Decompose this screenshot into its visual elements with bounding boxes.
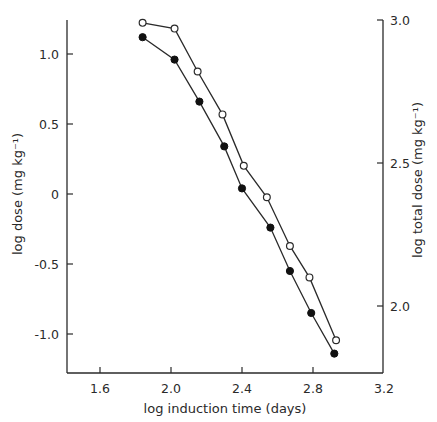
x-tick-label: 2.4 bbox=[232, 381, 252, 396]
x-tick-label: 3.2 bbox=[374, 381, 394, 396]
filled-circle-marker bbox=[286, 267, 293, 274]
open-circle-marker bbox=[219, 111, 226, 118]
filled-circle-marker bbox=[267, 224, 274, 231]
y-right-tick-label: 3.0 bbox=[390, 13, 410, 28]
filled-circle-marker bbox=[331, 350, 338, 357]
y-right-axis-title: log total dose (mg kg⁻¹) bbox=[410, 102, 425, 258]
filled-circle-marker bbox=[221, 143, 228, 150]
series-line-dose bbox=[143, 37, 335, 353]
y-right-tick-label: 2.0 bbox=[390, 299, 410, 314]
y-tick-label: -1.0 bbox=[35, 327, 59, 342]
open-circle-marker bbox=[171, 25, 178, 32]
x-tick-label: 2.8 bbox=[303, 381, 323, 396]
filled-circle-marker bbox=[196, 98, 203, 105]
y-tick-label: -0.5 bbox=[35, 257, 59, 272]
chart: 1.62.02.42.83.21.00.50-0.5-1.03.02.52.0l… bbox=[0, 0, 437, 422]
open-circle-marker bbox=[333, 337, 340, 344]
y-tick-label: 1.0 bbox=[39, 47, 59, 62]
axes: 1.62.02.42.83.21.00.50-0.5-1.03.02.52.0l… bbox=[10, 13, 425, 417]
open-circle-marker bbox=[194, 68, 201, 75]
filled-circle-marker bbox=[171, 56, 178, 63]
x-tick-label: 1.6 bbox=[90, 381, 110, 396]
open-circle-marker bbox=[306, 274, 313, 281]
open-circle-marker bbox=[240, 162, 247, 169]
x-tick-label: 2.0 bbox=[161, 381, 181, 396]
y-axis-title: log dose (mg kg⁻¹) bbox=[10, 133, 25, 255]
y-tick-label: 0 bbox=[51, 187, 59, 202]
y-tick-label: 0.5 bbox=[39, 117, 59, 132]
filled-circle-marker bbox=[139, 34, 146, 41]
open-circle-marker bbox=[287, 243, 294, 250]
open-circle-marker bbox=[139, 19, 146, 26]
filled-circle-marker bbox=[308, 309, 315, 316]
open-circle-marker bbox=[263, 194, 270, 201]
y-right-tick-label: 2.5 bbox=[390, 156, 410, 171]
series-layer bbox=[139, 19, 339, 357]
x-axis-title: log induction time (days) bbox=[144, 401, 307, 416]
filled-circle-marker bbox=[238, 185, 245, 192]
